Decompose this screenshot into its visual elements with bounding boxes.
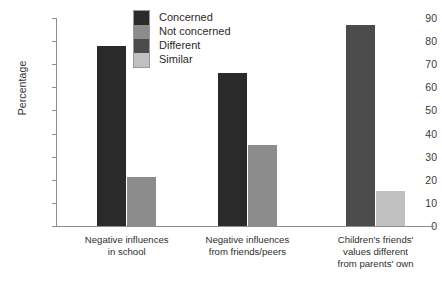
legend-label: Not concerned: [159, 24, 231, 38]
category-label-line: values different: [306, 246, 442, 258]
legend-label-column: ConcernedNot concernedDifferentSimilar: [159, 10, 231, 68]
legend-swatch: [134, 39, 149, 53]
bar: [346, 25, 375, 226]
bar: [376, 191, 405, 226]
x-axis-category-label: Children's friends'values differentfrom …: [306, 234, 442, 271]
legend-label: Similar: [159, 52, 231, 66]
bar: [97, 46, 126, 226]
bar: [248, 145, 277, 226]
category-label-line: Negative influences: [57, 234, 197, 246]
y-axis-title: Percentage: [16, 33, 28, 143]
plot-area: [57, 18, 434, 226]
category-label-line: from parents' own: [306, 258, 442, 270]
legend: ConcernedNot concernedDifferentSimilar: [133, 10, 231, 68]
category-label-line: Negative influences: [177, 234, 317, 246]
x-axis-category-label: Negative influencesin school: [57, 234, 197, 258]
legend-swatch: [134, 25, 149, 39]
x-axis-line: [56, 226, 434, 227]
legend-swatch-column: [133, 10, 150, 68]
legend-swatch: [134, 53, 149, 67]
category-label-line: from friends/peers: [177, 246, 317, 258]
bar: [218, 73, 247, 226]
legend-swatch: [134, 11, 149, 25]
category-label-line: Children's friends': [306, 234, 442, 246]
x-axis-category-label: Negative influencesfrom friends/peers: [177, 234, 317, 258]
legend-label: Concerned: [159, 10, 231, 24]
legend-label: Different: [159, 38, 231, 52]
category-label-line: in school: [57, 246, 197, 258]
bar: [127, 177, 156, 226]
